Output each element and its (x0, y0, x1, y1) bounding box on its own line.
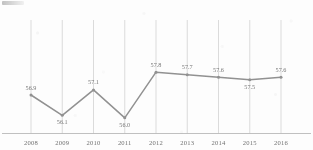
data-point-2016 (280, 76, 283, 79)
data-label-2009: 56.1 (57, 118, 68, 125)
data-label-2013: 57.7 (182, 63, 193, 70)
data-label-2012: 57.8 (151, 61, 162, 68)
x-tick-2013: 2013 (180, 139, 194, 146)
data-label-2011: 56.0 (119, 121, 130, 128)
x-tick-2010: 2010 (87, 139, 101, 146)
x-tick-2008: 2008 (24, 139, 38, 146)
data-point-2012 (155, 71, 158, 74)
data-point-2008 (30, 94, 33, 97)
data-point-2009 (61, 114, 64, 117)
x-tick-2015: 2015 (243, 139, 257, 146)
x-tick-2011: 2011 (118, 139, 132, 146)
gridlines (31, 20, 281, 134)
x-axis-tick-labels: 200820092010201120122013201420152016 (24, 139, 288, 146)
chart-canvas: 56.956.157.156.057.857.757.657.557.6 200… (0, 0, 313, 150)
data-label-2015: 57.5 (244, 83, 255, 90)
x-tick-2014: 2014 (212, 139, 226, 146)
x-tick-2016: 2016 (274, 139, 288, 146)
data-point-2013 (186, 73, 189, 76)
line-chart: 56.956.157.156.057.857.757.657.557.6 200… (0, 0, 313, 150)
data-label-2016: 57.6 (276, 66, 287, 73)
data-label-2008: 56.9 (26, 84, 37, 91)
data-label-2010: 57.1 (88, 78, 99, 85)
data-label-2014: 57.6 (213, 66, 224, 73)
data-point-2014 (217, 76, 220, 79)
data-point-2010 (92, 88, 95, 91)
data-point-2011 (123, 116, 126, 119)
data-point-2015 (248, 78, 251, 81)
x-tick-2012: 2012 (149, 139, 163, 146)
x-tick-2009: 2009 (55, 139, 69, 146)
